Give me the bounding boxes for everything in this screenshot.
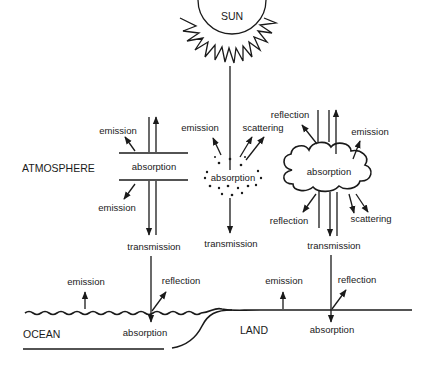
cloud-reflection-bottom-label: reflection — [270, 215, 309, 226]
ocean-reflection-label: reflection — [162, 275, 201, 286]
gas-emission-down-label: emission — [98, 202, 136, 213]
land-label: LAND — [240, 324, 268, 336]
radiation-diagram: SUN ATMOSPHERE absorption emission emiss… — [0, 0, 431, 368]
cloud-scattering-label: scattering — [350, 213, 391, 224]
cloud-reflection-top-label: reflection — [271, 109, 310, 120]
aerosol-cluster: absorption emission scattering transmiss… — [181, 122, 283, 249]
cloud: absorption reflection emission reflectio… — [270, 109, 392, 251]
ocean-absorption-label: absorption — [123, 327, 167, 338]
gas-emission-up-label: emission — [99, 125, 137, 136]
aerosol-absorption-label: absorption — [211, 172, 255, 183]
ocean-surface — [25, 312, 201, 315]
shore-slope — [172, 310, 232, 348]
aerosol-transmission-label: transmission — [204, 238, 257, 249]
ocean-interactions: emission reflection absorption OCEAN — [23, 275, 200, 340]
gas-transmission-label: transmission — [127, 241, 180, 252]
land-emission-label: emission — [265, 275, 303, 286]
land-interactions: emission reflection absorption LAND — [240, 274, 376, 336]
land-absorption-label: absorption — [310, 324, 354, 335]
aerosol-scattering-label: scattering — [242, 122, 283, 133]
ocean-label: OCEAN — [23, 328, 60, 340]
ocean-emission-label: emission — [67, 276, 105, 287]
gas-absorption-label: absorption — [132, 161, 176, 172]
diagram-svg: SUN ATMOSPHERE absorption emission emiss… — [0, 0, 431, 368]
land-reflection-label: reflection — [338, 274, 377, 285]
cloud-absorption-label: absorption — [307, 166, 351, 177]
cloud-transmission-label: transmission — [307, 240, 360, 251]
cloud-emission-label: emission — [351, 126, 389, 137]
sun-icon: SUN — [180, 0, 276, 63]
aerosol-emission-label: emission — [181, 122, 219, 133]
sun-label: SUN — [221, 10, 243, 22]
atmosphere-label: ATMOSPHERE — [22, 162, 95, 174]
gas-layer: absorption emission emission transmissio… — [98, 117, 188, 252]
